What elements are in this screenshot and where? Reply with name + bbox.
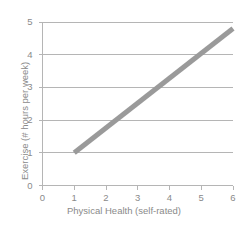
x-tick-label: 2 [99, 193, 113, 203]
x-tick-label: 1 [67, 193, 81, 203]
y-axis-title: Exercise (# hours per week) [19, 62, 30, 180]
y-tick-label: 0 [21, 181, 33, 191]
chart-figure: 012345 0123456 Physical Health (self-rat… [0, 0, 248, 232]
y-tick-label: 4 [21, 50, 33, 60]
x-tick-label: 6 [226, 193, 240, 203]
x-tick-label: 4 [163, 193, 177, 203]
x-tick-marks [43, 186, 234, 190]
gridlines [43, 22, 234, 153]
x-tick-label: 3 [131, 193, 145, 203]
y-tick-label: 5 [21, 17, 33, 27]
data-series [74, 29, 233, 153]
series-line [74, 29, 233, 153]
x-tick-label: 5 [194, 193, 208, 203]
y-tick-marks [39, 22, 43, 186]
x-tick-label: 0 [36, 193, 50, 203]
x-axis-title: Physical Health (self-rated) [0, 205, 248, 216]
